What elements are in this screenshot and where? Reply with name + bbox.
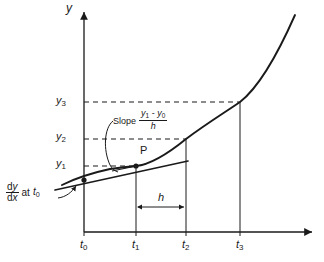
derivative-denominator: dx: [6, 193, 19, 203]
slope-fraction: y1 - y0 h: [139, 109, 167, 131]
marker-t0: [81, 177, 86, 182]
h-dimension-label: h: [158, 192, 164, 203]
slope-annotation: Slope y1 - y0 h: [113, 110, 167, 132]
derivative-at-word: at: [22, 188, 30, 198]
y-tick-label-y3: y3: [56, 95, 66, 108]
function-curve: [62, 15, 295, 185]
y-tick-label-y2: y2: [56, 131, 66, 144]
derivative-annotation: dy dx at t0: [6, 182, 40, 203]
derivative-diagram: y y3 y2 y1 t0 t1 t2 t3 P h Slope y1 - y0…: [0, 0, 324, 262]
derivative-at-point: t0: [33, 187, 40, 198]
marker-point-p: [133, 163, 138, 168]
derivative-numerator: dy: [6, 182, 19, 192]
x-tick-label-t1: t1: [132, 239, 139, 252]
slope-numerator: y1 - y0: [139, 109, 167, 120]
derivative-fraction: dy dx: [6, 182, 19, 203]
slope-word: Slope: [113, 117, 136, 126]
y-tick-label-y1: y1: [56, 158, 66, 171]
x-tick-label-t2: t2: [182, 239, 189, 252]
slope-denominator: h: [149, 121, 158, 131]
x-tick-label-t0: t0: [80, 239, 87, 252]
x-tick-label-t3: t3: [236, 239, 243, 252]
point-p-label: P: [140, 145, 147, 156]
tangent-line-at-t0: [55, 161, 188, 190]
y-axis-label: y: [66, 2, 72, 14]
